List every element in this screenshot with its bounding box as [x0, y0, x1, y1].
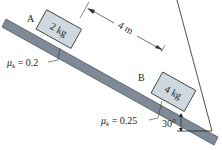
friction-a-label: μk = 0.2: [6, 57, 38, 70]
incline-plane: [2, 19, 218, 145]
angle-label: 30°: [162, 118, 176, 129]
incline-diagram: 2 kg A 4 kg B 4 m μk = 0.2 μk = 0.25 30°: [0, 0, 222, 150]
horizontal-reference-line: [177, 0, 212, 131]
distance-label: 4 m: [116, 19, 135, 36]
block-a-label: A: [27, 13, 35, 24]
block-b-label: B: [138, 72, 145, 83]
friction-b-label: μk = 0.25: [100, 115, 137, 128]
distance-dimension-line: [93, 11, 114, 23]
